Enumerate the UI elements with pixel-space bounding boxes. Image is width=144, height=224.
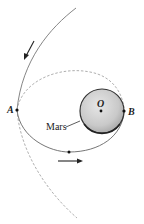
mars-orbit-diagram: O A B Mars bbox=[0, 0, 144, 224]
mars-leader-line bbox=[66, 121, 80, 127]
orbit-direction-arrow-icon bbox=[58, 159, 83, 164]
point-b bbox=[122, 109, 125, 112]
label-a: A bbox=[6, 104, 14, 115]
orbit-point bbox=[68, 151, 71, 154]
label-b: B bbox=[127, 106, 135, 117]
label-o: O bbox=[97, 98, 104, 109]
approach-trajectory bbox=[17, 8, 76, 110]
center-point-o bbox=[100, 110, 103, 113]
label-mars: Mars bbox=[46, 121, 67, 132]
point-a bbox=[15, 108, 18, 111]
